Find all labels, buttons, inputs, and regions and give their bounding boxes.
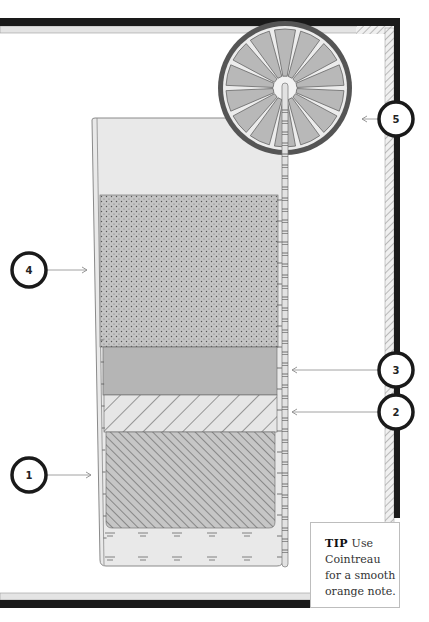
layer-3-solid — [103, 347, 277, 395]
callout-2: 2 — [379, 395, 413, 429]
frame-bottom-light-band — [0, 593, 320, 600]
frame-top-dark-bar — [0, 18, 400, 26]
frame-right-dark-bar — [394, 18, 400, 518]
tip-label: TIP — [325, 537, 348, 550]
layer-4-dotted — [100, 195, 278, 347]
callout-number-4: 4 — [26, 265, 33, 276]
callout-number-5: 5 — [393, 114, 400, 125]
tip-box: TIP Use Cointreau for a smooth orange no… — [310, 522, 400, 608]
layer-2-light-hatch — [104, 395, 277, 432]
frame-bottom-dark-bar — [0, 600, 320, 608]
straw — [282, 83, 288, 567]
callout-number-3: 3 — [393, 365, 400, 376]
glass — [92, 118, 284, 566]
callout-number-1: 1 — [26, 470, 33, 481]
layer-1-dark-hatch — [106, 432, 275, 528]
straw-body — [282, 83, 288, 567]
callout-5: 5 — [379, 102, 413, 136]
callout-1: 1 — [12, 458, 46, 492]
callout-4: 4 — [12, 253, 46, 287]
callout-3: 3 — [379, 353, 413, 387]
callout-number-2: 2 — [393, 407, 400, 418]
